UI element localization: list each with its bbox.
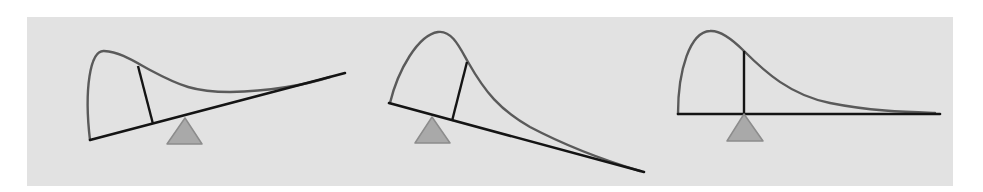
balance-diagram: [0, 0, 983, 192]
diagram-background: [27, 17, 953, 186]
